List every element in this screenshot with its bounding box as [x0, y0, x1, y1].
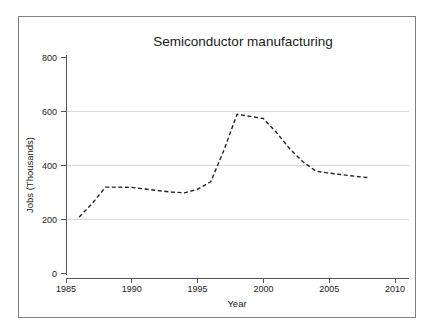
- y-tick-label-0: 0: [52, 269, 57, 279]
- x-axis: 1985 1990 1995 2000 2005 2010: [56, 278, 409, 294]
- x-tick-label-2000: 2000: [253, 284, 273, 294]
- y-tick-label-800: 800: [42, 53, 57, 63]
- y-tick-label-200: 200: [42, 215, 57, 225]
- y-axis-title: Jobs (Thousands): [24, 137, 35, 213]
- x-tick-label-1990: 1990: [122, 284, 142, 294]
- x-axis-title: Year: [227, 298, 246, 309]
- chart-title: Semiconductor manufacturing: [153, 34, 332, 49]
- chart-figure: Semiconductor manufacturing 800 600 400 …: [0, 0, 434, 334]
- x-tick-label-1985: 1985: [56, 284, 76, 294]
- x-tick-label-2005: 2005: [319, 284, 339, 294]
- y-axis: 800 600 400 200 0: [42, 53, 66, 279]
- x-tick-label-2010: 2010: [385, 284, 405, 294]
- y-tick-label-600: 600: [42, 107, 57, 117]
- gridlines: [66, 111, 409, 219]
- line-chart: Semiconductor manufacturing 800 600 400 …: [0, 0, 434, 334]
- data-series-line: [79, 114, 369, 217]
- y-tick-label-400: 400: [42, 161, 57, 171]
- x-tick-label-1995: 1995: [188, 284, 208, 294]
